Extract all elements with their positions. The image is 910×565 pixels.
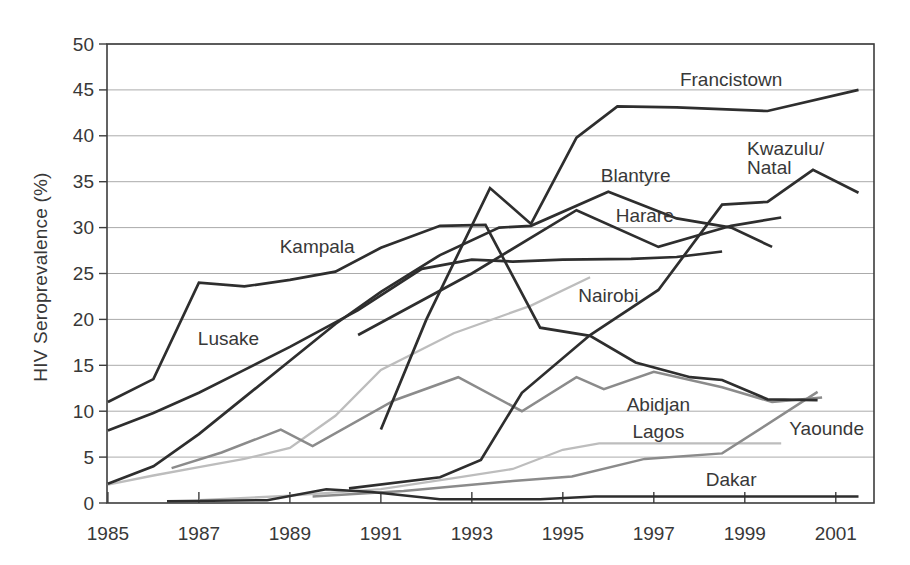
series-label-nairobi: Nairobi	[578, 285, 638, 306]
y-tick-label-10: 10	[73, 401, 94, 422]
x-tick-label-1999: 1999	[724, 523, 766, 544]
series-label-kampala: Kampala	[280, 236, 355, 257]
series-label-kwazulu-natal-2: Natal	[747, 157, 791, 178]
series-label-lagos: Lagos	[632, 421, 684, 442]
y-tick-label-5: 5	[83, 447, 94, 468]
series-label-dakar: Dakar	[706, 469, 757, 490]
y-tick-label-0: 0	[83, 493, 94, 514]
series-label-abidjan: Abidjan	[627, 394, 690, 415]
y-tick-label-25: 25	[73, 263, 94, 284]
x-tick-label-2001: 2001	[815, 523, 857, 544]
x-tick-label-1989: 1989	[269, 523, 311, 544]
series-line-harare	[358, 210, 781, 335]
series-label-yaounde: Yaounde	[789, 418, 864, 439]
x-tick-label-1985: 1985	[87, 523, 129, 544]
x-tick-label-1993: 1993	[451, 523, 493, 544]
series-label-francistown: Francistown	[680, 69, 782, 90]
x-tick-label-1991: 1991	[360, 523, 402, 544]
series-line-nairobi	[108, 277, 590, 484]
series-line-lagos	[199, 443, 781, 500]
series-label-blantyre: Blantyre	[601, 165, 671, 186]
x-tick-label-1997: 1997	[633, 523, 675, 544]
y-tick-label-15: 15	[73, 355, 94, 376]
y-tick-label-40: 40	[73, 125, 94, 146]
line-chart-canvas: 0510152025303540455019851987198919911993…	[0, 0, 910, 565]
x-tick-label-1987: 1987	[178, 523, 220, 544]
series-line-dakar	[167, 489, 859, 501]
series-label-lusake: Lusake	[198, 328, 259, 349]
y-axis-title: HIV Seroprevalence (%)	[30, 152, 54, 402]
y-tick-label-45: 45	[73, 79, 94, 100]
series-label-harare: Harare	[616, 205, 674, 226]
y-tick-label-30: 30	[73, 217, 94, 238]
series-line-kampala	[108, 225, 818, 402]
hiv-seroprevalence-chart: 0510152025303540455019851987198919911993…	[0, 0, 910, 565]
x-tick-label-1995: 1995	[542, 523, 584, 544]
y-tick-label-20: 20	[73, 309, 94, 330]
series-line-kwazulu-natal	[349, 170, 859, 489]
y-tick-label-35: 35	[73, 171, 94, 192]
y-tick-label-50: 50	[73, 34, 94, 55]
